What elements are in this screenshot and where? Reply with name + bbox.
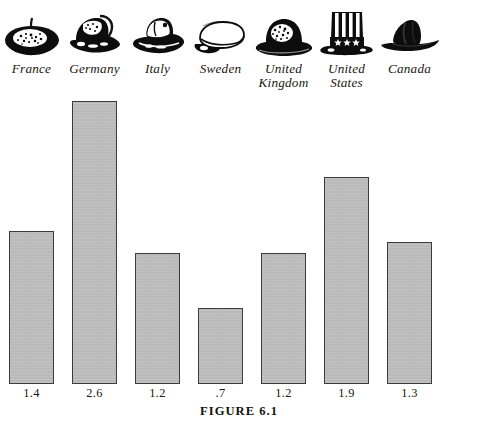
value-label-italy: 1.2 — [126, 386, 189, 404]
value-label-germany: 2.6 — [63, 386, 126, 404]
country-label-united-kingdom: United Kingdom — [251, 62, 317, 91]
bar-united-kingdom — [261, 253, 306, 384]
country-column-germany: Germany — [63, 0, 126, 104]
country-header-row: France Germany — [0, 0, 478, 104]
bar-sweden — [198, 308, 243, 384]
country-column-canada: Canada — [378, 0, 441, 104]
country-column-italy: Italy — [126, 0, 189, 104]
bar-column-canada — [378, 100, 441, 384]
country-label-france: France — [0, 62, 65, 77]
country-column-france: France — [0, 0, 63, 104]
value-label-france: 1.4 — [0, 386, 63, 404]
country-label-line1: United — [328, 61, 365, 76]
bar-column-united-states — [315, 100, 378, 384]
value-label-united-states: 1.9 — [315, 386, 378, 404]
bar-column-united-kingdom — [252, 100, 315, 384]
figure-caption: FIGURE 6.1 — [0, 404, 478, 419]
country-column-sweden: Sweden — [189, 0, 252, 104]
bar-united-states — [324, 177, 369, 384]
fedora-hat-icon — [126, 0, 189, 60]
student-cap-icon — [189, 0, 252, 60]
bar-column-italy — [126, 100, 189, 384]
country-label-italy: Italy — [125, 62, 191, 77]
bowler-hat-icon — [252, 0, 315, 60]
value-label-row: 1.4 2.6 1.2 .7 1.2 1.9 1.3 — [0, 386, 478, 404]
value-label-canada: 1.3 — [378, 386, 441, 404]
country-label-line2: States — [330, 75, 363, 90]
country-label-line1: United — [265, 61, 302, 76]
bar-germany — [72, 101, 117, 384]
bar-france — [9, 231, 54, 384]
country-column-united-kingdom: United Kingdom — [252, 0, 315, 104]
beret-hat-icon — [0, 0, 63, 60]
country-label-line2: Kingdom — [259, 75, 309, 90]
value-label-sweden: .7 — [189, 386, 252, 404]
value-label-united-kingdom: 1.2 — [252, 386, 315, 404]
bar-canada — [387, 242, 432, 384]
campaign-hat-icon — [378, 0, 441, 60]
bar-italy — [135, 253, 180, 384]
country-label-canada: Canada — [377, 62, 443, 77]
bar-column-germany — [63, 100, 126, 384]
country-label-germany: Germany — [62, 62, 128, 77]
bar-column-sweden — [189, 100, 252, 384]
chart-plot-area — [0, 100, 478, 384]
bar-column-france — [0, 100, 63, 384]
country-label-sweden: Sweden — [188, 62, 254, 77]
country-label-united-states: United States — [314, 62, 380, 91]
country-column-united-states: United States — [315, 0, 378, 104]
tyrolean-hat-icon — [63, 0, 126, 60]
top-hat-icon — [315, 0, 378, 60]
figure-bar-chart: France Germany — [0, 0, 478, 422]
